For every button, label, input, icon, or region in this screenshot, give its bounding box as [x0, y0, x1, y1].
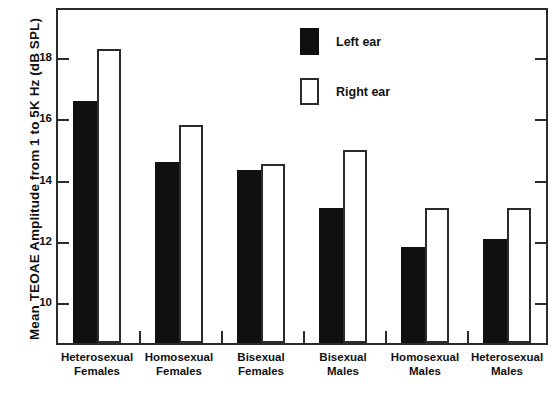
y-axis-tick-right — [535, 181, 546, 183]
legend-item: Right ear — [300, 78, 390, 105]
legend-swatch-left-ear — [300, 28, 319, 55]
y-axis-tick-left — [58, 181, 69, 183]
x-axis-label-line: Females — [56, 364, 138, 378]
legend-swatch-right-ear — [300, 78, 319, 105]
bar-right-ear — [425, 208, 449, 343]
x-axis-group-separator — [303, 331, 305, 343]
x-axis-group-separator — [139, 331, 141, 343]
y-axis-tick-right — [535, 119, 546, 121]
x-axis-category-labels: HeterosexualFemalesHomosexualFemalesBise… — [56, 350, 548, 394]
x-axis-label-line: Males — [302, 364, 384, 378]
bar-right-ear — [179, 125, 203, 343]
bar-right-ear — [343, 150, 367, 343]
x-axis-label-line: Heterosexual — [56, 350, 138, 364]
bar-left-ear — [319, 208, 343, 343]
x-axis-group-separator — [385, 331, 387, 343]
y-axis-tick-right — [535, 242, 546, 244]
y-axis-tick-left — [58, 303, 69, 305]
y-axis-tick-label: 14 — [26, 174, 52, 186]
x-axis-label-line: Females — [138, 364, 220, 378]
y-axis-tick-left — [58, 119, 69, 121]
x-axis-label-line: Bisexual — [302, 350, 384, 364]
x-axis-category-label: HomosexualMales — [384, 350, 466, 378]
y-axis-tick-right — [535, 58, 546, 60]
y-axis-tick-label: 18 — [26, 51, 52, 63]
legend-item: Left ear — [300, 28, 381, 55]
bar-right-ear — [261, 164, 285, 343]
x-axis-category-label: BisexualFemales — [220, 350, 302, 378]
y-axis-tick-right — [535, 303, 546, 305]
x-axis-label-line: Males — [384, 364, 466, 378]
y-axis-tick-label: 10 — [26, 296, 52, 308]
bar-left-ear — [401, 247, 425, 344]
y-axis-tick-labels: 1012141618 — [22, 0, 52, 396]
plot-area — [56, 8, 548, 345]
x-axis-label-line: Females — [220, 364, 302, 378]
chart-figure: Mean TEOAE Amplitude from 1 to 5K Hz (dB… — [0, 0, 557, 396]
y-axis-tick-label: 12 — [26, 235, 52, 247]
x-axis-group-separator — [221, 331, 223, 343]
bar-left-ear — [483, 239, 507, 343]
y-axis-tick-left — [58, 242, 69, 244]
bar-right-ear — [97, 49, 121, 343]
x-axis-category-label: BisexualMales — [302, 350, 384, 378]
x-axis-label-line: Males — [466, 364, 548, 378]
bar-left-ear — [155, 162, 179, 343]
x-axis-label-line: Homosexual — [138, 350, 220, 364]
y-axis-tick-label: 16 — [26, 112, 52, 124]
x-axis-category-label: HeterosexualFemales — [56, 350, 138, 378]
bar-left-ear — [237, 170, 261, 343]
x-axis-category-label: HomosexualFemales — [138, 350, 220, 378]
x-axis-category-label: HeterosexualMales — [466, 350, 548, 378]
x-axis-label-line: Homosexual — [384, 350, 466, 364]
legend-label: Right ear — [336, 85, 390, 99]
x-axis-group-separator — [467, 331, 469, 343]
plot-inner — [58, 10, 546, 343]
legend-label: Left ear — [336, 35, 381, 49]
y-axis-tick-left — [58, 58, 69, 60]
x-axis-label-line: Heterosexual — [466, 350, 548, 364]
bar-right-ear — [507, 208, 531, 343]
bar-left-ear — [73, 101, 97, 343]
x-axis-label-line: Bisexual — [220, 350, 302, 364]
